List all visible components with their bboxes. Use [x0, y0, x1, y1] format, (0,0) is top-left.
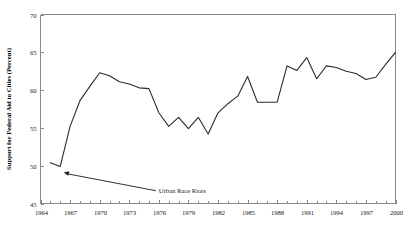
data-line-support-federal-aid [50, 52, 395, 166]
x-tick-label: 1988 [271, 209, 285, 216]
x-tick-label: 2000 [390, 209, 404, 216]
y-tick-label: 60 [30, 87, 37, 94]
x-tick-label: 1973 [123, 209, 137, 216]
x-tick-label: 1976 [153, 209, 167, 216]
x-tick-label: 1997 [360, 209, 374, 216]
x-tick-label: 1967 [64, 209, 78, 216]
y-tick-label: 45 [30, 201, 37, 208]
x-tick-label: 1994 [330, 209, 344, 216]
x-tick-label: 1985 [242, 209, 256, 216]
chart-figure: Support for Federal Aid to Cities (Perce… [0, 0, 406, 228]
chart-annotations: Urban Race Riots [64, 171, 206, 194]
annotation-label-urban-race-riots: Urban Race Riots [159, 187, 206, 194]
annotation-arrowhead [64, 171, 70, 176]
annotation-leader-line [69, 174, 156, 191]
x-tick-label: 1964 [35, 209, 49, 216]
x-tick-label: 1979 [182, 209, 196, 216]
x-tick-label: 1970 [94, 209, 108, 216]
x-tick-label: 1991 [301, 209, 314, 216]
y-tick-label: 65 [30, 49, 37, 56]
y-tick-label: 70 [30, 12, 37, 19]
y-axis-ticks: 455055606570 [30, 12, 44, 208]
line-chart: Support for Federal Aid to Cities (Perce… [0, 0, 406, 228]
y-axis-title: Support for Federal Aid to Cities (Perce… [5, 48, 13, 170]
y-tick-label: 50 [30, 163, 37, 170]
x-tick-label: 1982 [212, 209, 225, 216]
y-tick-label: 55 [30, 125, 37, 132]
